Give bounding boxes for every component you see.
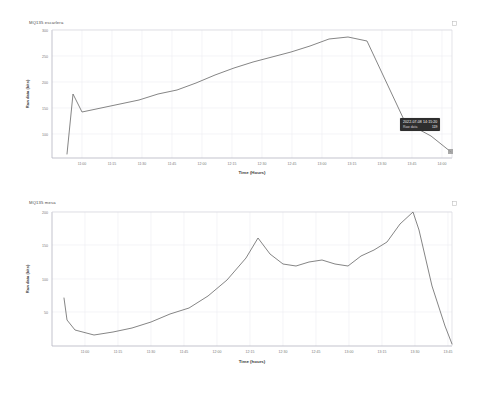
svg-text:13:00: 13:00 bbox=[345, 350, 354, 354]
svg-text:11:15: 11:15 bbox=[108, 162, 117, 166]
svg-text:13:30: 13:30 bbox=[378, 162, 387, 166]
svg-text:100: 100 bbox=[42, 278, 48, 282]
svg-text:11:30: 11:30 bbox=[138, 162, 147, 166]
svg-text:13:45: 13:45 bbox=[408, 162, 417, 166]
svg-text:150: 150 bbox=[42, 244, 48, 248]
svg-text:Raw data (bits): Raw data (bits) bbox=[25, 264, 30, 293]
tooltip-series-label: Raw data bbox=[403, 125, 417, 129]
svg-text:12:15: 12:15 bbox=[228, 162, 237, 166]
svg-text:11:30: 11:30 bbox=[147, 350, 156, 354]
figure-page: MQ135 escarlera bbox=[0, 0, 477, 413]
svg-text:11:00: 11:00 bbox=[78, 162, 87, 166]
svg-text:12:45: 12:45 bbox=[288, 162, 297, 166]
svg-text:13:30: 13:30 bbox=[411, 350, 420, 354]
svg-text:Raw data (bits): Raw data (bits) bbox=[25, 79, 30, 108]
svg-text:200: 200 bbox=[42, 211, 48, 215]
subfigure-b: MQ135 mesa bbox=[0, 198, 477, 368]
subfigure-a: MQ135 escarlera bbox=[0, 18, 477, 178]
svg-text:13:15: 13:15 bbox=[378, 350, 387, 354]
plot-area-a: 300 250 200 150 100 11:00 11:15 11:30 11… bbox=[15, 18, 462, 178]
svg-text:12:30: 12:30 bbox=[279, 350, 288, 354]
svg-text:12:15: 12:15 bbox=[246, 350, 255, 354]
tooltip-value: 119 bbox=[432, 125, 437, 129]
svg-text:13:45: 13:45 bbox=[444, 350, 453, 354]
chart-panel-a: MQ135 escarlera bbox=[15, 18, 462, 178]
svg-text:13:15: 13:15 bbox=[348, 162, 357, 166]
svg-text:12:30: 12:30 bbox=[258, 162, 267, 166]
svg-text:12:00: 12:00 bbox=[213, 350, 222, 354]
tooltip-timestamp: 2022-07-08 14:15:20 bbox=[403, 120, 437, 124]
plot-area-b: 200 150 100 50 11:00 11:15 11:30 11:45 1… bbox=[15, 198, 462, 368]
chart-tooltip-a: 2022-07-08 14:15:20 Raw data 119 bbox=[400, 118, 440, 131]
svg-text:150: 150 bbox=[42, 107, 48, 111]
svg-text:14:00: 14:00 bbox=[438, 162, 447, 166]
svg-text:100: 100 bbox=[42, 133, 48, 137]
svg-text:12:45: 12:45 bbox=[312, 350, 321, 354]
svg-text:11:15: 11:15 bbox=[114, 350, 123, 354]
svg-text:13:00: 13:00 bbox=[318, 162, 327, 166]
svg-text:200: 200 bbox=[42, 81, 48, 85]
svg-text:300: 300 bbox=[42, 29, 48, 33]
chart-panel-b: MQ135 mesa bbox=[15, 198, 462, 368]
svg-text:250: 250 bbox=[42, 55, 48, 59]
svg-text:11:00: 11:00 bbox=[81, 350, 90, 354]
svg-text:11:45: 11:45 bbox=[168, 162, 177, 166]
svg-text:Time (Hours): Time (Hours) bbox=[239, 170, 267, 175]
svg-text:Time (hours): Time (hours) bbox=[239, 359, 266, 364]
svg-text:11:45: 11:45 bbox=[180, 350, 189, 354]
svg-text:12:00: 12:00 bbox=[198, 162, 207, 166]
svg-text:50: 50 bbox=[44, 311, 48, 315]
